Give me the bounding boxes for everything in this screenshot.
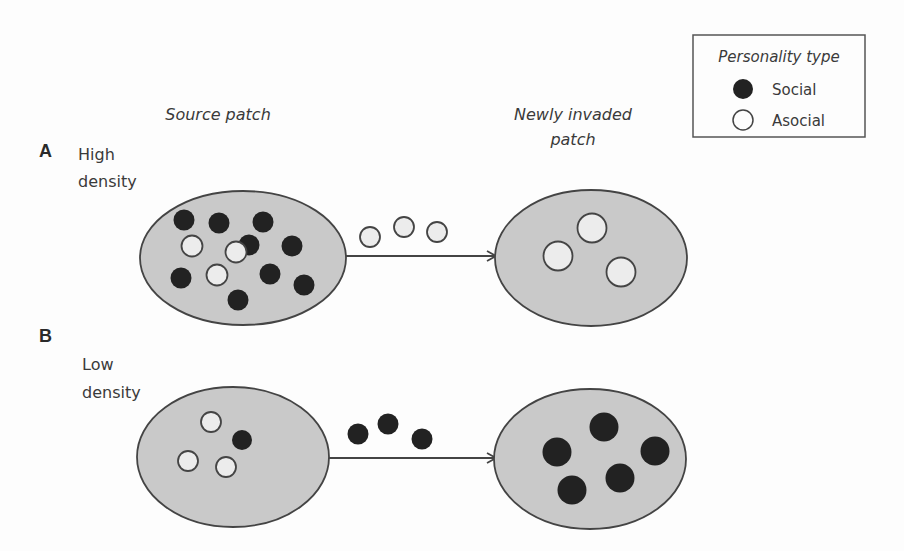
panel-a: A High density xyxy=(39,141,687,326)
panel-b-letter: B xyxy=(39,326,52,346)
legend-asocial-icon xyxy=(733,110,753,130)
source-patch-label: Source patch xyxy=(165,105,271,124)
social-individual-icon xyxy=(543,438,572,467)
social-individual-icon xyxy=(378,414,399,435)
social-individual-icon xyxy=(412,429,433,450)
asocial-individual-icon xyxy=(394,217,414,237)
social-individual-icon xyxy=(174,210,195,231)
asocial-individual-icon xyxy=(226,242,247,263)
legend: Personality type Social Asocial xyxy=(693,35,865,137)
asocial-individual-icon xyxy=(207,265,228,286)
asocial-individual-icon xyxy=(578,214,607,243)
asocial-individual-icon xyxy=(544,242,573,271)
panel-b: B Low density xyxy=(39,326,686,529)
legend-social-label: Social xyxy=(772,81,816,99)
asocial-individual-icon xyxy=(178,451,198,471)
asocial-individual-icon xyxy=(182,236,203,257)
social-individual-icon xyxy=(348,424,369,445)
legend-title: Personality type xyxy=(718,48,840,66)
panel-a-letter: A xyxy=(39,141,52,161)
panel-b-dispersing-individuals xyxy=(348,414,433,450)
social-individual-icon xyxy=(209,213,230,234)
panel-b-source-patch xyxy=(137,387,329,527)
newly-invaded-label-line1: Newly invaded xyxy=(514,105,633,124)
social-individual-icon xyxy=(606,464,635,493)
panel-b-density-line1: Low xyxy=(82,355,114,374)
social-individual-icon xyxy=(253,212,274,233)
legend-social-icon xyxy=(733,79,753,99)
asocial-individual-icon xyxy=(427,222,447,242)
social-individual-icon xyxy=(171,268,192,289)
social-individual-icon xyxy=(282,236,303,257)
social-individual-icon xyxy=(294,275,315,296)
panel-a-dispersing-individuals xyxy=(360,217,447,247)
legend-asocial-label: Asocial xyxy=(772,112,825,130)
asocial-individual-icon xyxy=(216,457,236,477)
panel-b-density-line2: density xyxy=(82,383,141,402)
panel-a-target-patch xyxy=(495,190,687,326)
social-individual-icon xyxy=(641,437,670,466)
asocial-individual-icon xyxy=(607,258,636,287)
social-individual-icon xyxy=(558,476,587,505)
dispersal-diagram: Personality type Social Asocial Source p… xyxy=(0,0,904,551)
panel-a-density-line1: High xyxy=(78,145,115,164)
social-individual-icon xyxy=(232,430,252,450)
panel-a-density-line2: density xyxy=(78,172,137,191)
asocial-individual-icon xyxy=(360,227,380,247)
newly-invaded-label-line2: patch xyxy=(549,130,595,149)
social-individual-icon xyxy=(260,264,281,285)
social-individual-icon xyxy=(228,290,249,311)
social-individual-icon xyxy=(590,413,619,442)
asocial-individual-icon xyxy=(201,412,221,432)
